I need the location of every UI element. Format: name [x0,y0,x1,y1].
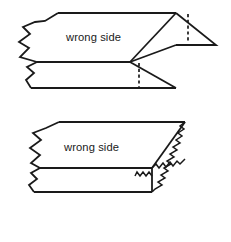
lower-figure-group: wrong side [29,122,185,192]
upper-wrong-side-label: wrong side [65,31,121,43]
diagram-root: wrong side [0,0,231,242]
upper-figure-group: wrong side [19,13,216,88]
upper-front-band-fill [26,62,130,88]
lower-wrong-side-label: wrong side [63,141,119,153]
sewing-diagram-canvas: wrong side [0,0,231,242]
lower-front-band-fill [29,168,152,192]
